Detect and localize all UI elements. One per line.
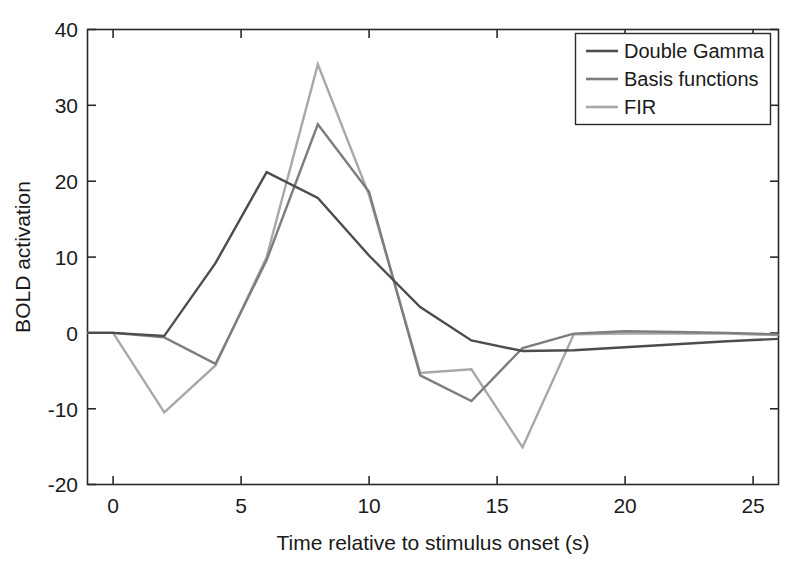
y-axis-title: BOLD activation xyxy=(11,181,34,333)
y-tick-label-0: 0 xyxy=(66,322,78,345)
y-tick-label-20: 20 xyxy=(55,170,78,193)
y-tick-label-minus10: -10 xyxy=(48,398,78,421)
legend-label-double-gamma: Double Gamma xyxy=(624,40,765,62)
x-axis-title: Time relative to stimulus onset (s) xyxy=(276,531,589,554)
y-tick-label-30: 30 xyxy=(55,94,78,117)
y-tick-label-10: 10 xyxy=(55,246,78,269)
x-tick-label-20: 20 xyxy=(613,494,636,517)
x-tick-label-10: 10 xyxy=(357,494,380,517)
chart-figure: 40 30 20 10 0 -10 -20 0 5 10 15 20 25 Ti… xyxy=(0,0,799,574)
legend[interactable]: Double Gamma Basis functions FIR xyxy=(576,34,771,125)
x-tick-label-15: 15 xyxy=(485,494,508,517)
legend-label-fir: FIR xyxy=(624,96,656,118)
chart-svg: 40 30 20 10 0 -10 -20 0 5 10 15 20 25 Ti… xyxy=(0,0,799,574)
x-tick-label-0: 0 xyxy=(107,494,119,517)
x-tick-label-5: 5 xyxy=(235,494,247,517)
legend-label-basis-functions: Basis functions xyxy=(624,68,759,90)
y-tick-label-40: 40 xyxy=(55,18,78,41)
y-tick-label-minus20: -20 xyxy=(48,473,78,496)
x-tick-label-25: 25 xyxy=(741,494,764,517)
